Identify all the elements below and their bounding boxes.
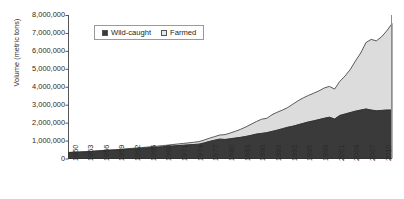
x-axis-tick-label: 1977: [212, 145, 219, 161]
x-axis-tick-label: 1980: [228, 145, 235, 161]
legend-swatch-icon: [102, 30, 108, 36]
x-axis-tick-label: 2010: [385, 145, 392, 161]
x-axis-tick-label: 1965: [150, 145, 157, 161]
legend-label: Farmed: [170, 28, 196, 37]
x-axis-tick-label: 1974: [197, 145, 204, 161]
legend-swatch-icon: [161, 30, 167, 36]
x-axis-tick-label: 1998: [322, 145, 329, 161]
chart-legend: Wild-caughtFarmed: [94, 25, 204, 40]
x-axis-tick-label: 1995: [306, 145, 313, 161]
x-axis-tick-label: 2001: [338, 145, 345, 161]
legend-label: Wild-caught: [111, 28, 151, 37]
x-axis-tick-label: 1992: [291, 145, 298, 161]
x-axis-tick-label: 2004: [353, 145, 360, 161]
legend-entry[interactable]: Wild-caught: [102, 28, 151, 37]
legend-entry[interactable]: Farmed: [161, 28, 196, 37]
x-axis-tick-label: 1983: [244, 145, 251, 161]
x-axis-tick-label: 1968: [165, 145, 172, 161]
x-axis-tick-label: 1962: [134, 145, 141, 161]
x-axis-tick-label: 1956: [103, 145, 110, 161]
x-axis-tick-label: 2007: [369, 145, 376, 161]
x-axis-tick-label: 1989: [275, 145, 282, 161]
x-axis-tick-label: 1986: [259, 145, 266, 161]
x-axis-tick-label: 1959: [118, 145, 125, 161]
x-axis-tick-label: 1971: [181, 145, 188, 161]
x-axis-tick-label: 1950: [72, 145, 79, 161]
chart-container: Volume (metric tons) 01,000,0002,000,000…: [0, 0, 404, 199]
x-axis-tick-label: 1953: [87, 145, 94, 161]
